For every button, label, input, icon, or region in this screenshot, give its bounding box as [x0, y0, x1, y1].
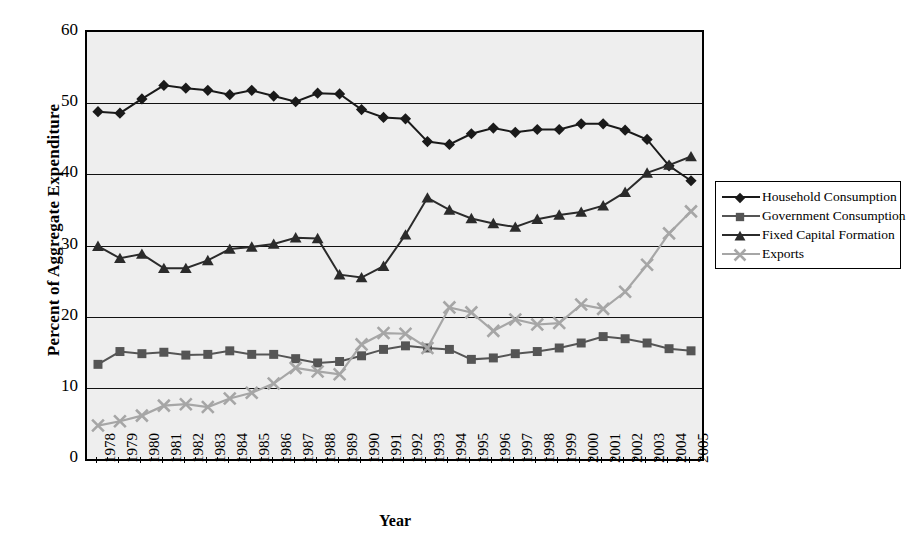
x-minor-tick [239, 457, 240, 461]
x-minor-tick [217, 457, 218, 461]
x-minor-tick [634, 457, 635, 461]
x-tick-mark-1986 [272, 457, 273, 463]
x-minor-tick [656, 457, 657, 461]
x-minor-tick [502, 457, 503, 461]
x-tick-mark-1980 [140, 457, 141, 463]
x-tick-label-1997: 1997 [520, 447, 535, 463]
legend-item-government-consumption[interactable]: Government Consumption [720, 206, 896, 225]
x-minor-tick [129, 457, 130, 461]
x-tick-label-1996: 1996 [498, 447, 513, 463]
x-tick-mark-2003 [645, 457, 646, 463]
x-minor-tick [305, 457, 306, 461]
x-tick-mark-1987 [294, 457, 295, 463]
chart-root: Percent of Aggregate Expenditure 0102030… [0, 0, 912, 545]
x-tick-label-1978: 1978 [103, 447, 118, 463]
x-minor-tick [173, 457, 174, 461]
legend-marker-triangle-icon [733, 229, 747, 243]
legend-marker-diamond-icon [733, 191, 747, 205]
x-tick-label-2003: 2003 [652, 447, 667, 463]
x-tick-mark-1997 [513, 457, 514, 463]
legend-item-fixed-capital-formation[interactable]: Fixed Capital Formation [720, 225, 896, 244]
x-minor-tick [371, 457, 372, 461]
x-tick-label-1985: 1985 [257, 447, 272, 463]
x-minor-tick [546, 457, 547, 461]
x-tick-mark-1982 [184, 457, 185, 463]
x-minor-tick [436, 457, 437, 461]
x-minor-tick [327, 457, 328, 461]
chart-legend: Household ConsumptionGovernment Consumpt… [715, 181, 901, 269]
x-tick-label-1982: 1982 [191, 447, 206, 463]
x-tick-mark-1993 [425, 457, 426, 463]
x-tick-mark-1990 [360, 457, 361, 463]
x-minor-tick [480, 457, 481, 461]
x-tick-mark-2005 [689, 457, 690, 463]
x-tick-mark-1992 [403, 457, 404, 463]
x-tick-label-1994: 1994 [454, 447, 469, 463]
x-tick-mark-1998 [535, 457, 536, 463]
x-tick-label-2002: 2002 [630, 447, 645, 463]
x-minor-tick [678, 457, 679, 461]
x-tick-label-1993: 1993 [432, 447, 447, 463]
x-minor-tick [85, 457, 86, 461]
x-tick-mark-2000 [579, 457, 580, 463]
x-minor-tick [612, 457, 613, 461]
legend-label: Household Consumption [762, 190, 897, 204]
x-tick-mark-1984 [228, 457, 229, 463]
x-minor-tick [261, 457, 262, 461]
x-tick-mark-2004 [667, 457, 668, 463]
x-tick-mark-1979 [118, 457, 119, 463]
legend-key-icon [720, 226, 762, 244]
x-tick-label-1979: 1979 [125, 447, 140, 463]
legend-item-exports[interactable]: Exports [720, 244, 896, 263]
x-tick-mark-2002 [623, 457, 624, 463]
x-minor-tick [700, 457, 701, 461]
x-tick-mark-1988 [316, 457, 317, 463]
x-minor-tick [151, 457, 152, 461]
x-tick-mark-1994 [447, 457, 448, 463]
legend-marker-square-icon [733, 210, 747, 224]
x-tick-label-2004: 2004 [674, 447, 689, 463]
x-tick-mark-1999 [557, 457, 558, 463]
x-tick-label-1983: 1983 [213, 447, 228, 463]
x-tick-label-1990: 1990 [367, 447, 382, 463]
x-tick-label-2005: 2005 [696, 447, 711, 463]
x-axis-title: Year [330, 512, 460, 530]
legend-item-household-consumption[interactable]: Household Consumption [720, 187, 896, 206]
x-tick-mark-1978 [96, 457, 97, 463]
x-minor-tick [524, 457, 525, 461]
x-minor-tick [414, 457, 415, 461]
x-tick-label-1995: 1995 [476, 447, 491, 463]
x-tick-label-1998: 1998 [542, 447, 557, 463]
x-tick-mark-1983 [206, 457, 207, 463]
x-tick-mark-1991 [382, 457, 383, 463]
x-tick-label-1987: 1987 [301, 447, 316, 463]
x-minor-tick [107, 457, 108, 461]
x-tick-label-1999: 1999 [564, 447, 579, 463]
x-tick-mark-1981 [162, 457, 163, 463]
x-minor-tick [568, 457, 569, 461]
legend-key-icon [720, 188, 762, 206]
x-minor-tick [195, 457, 196, 461]
legend-key-icon [720, 207, 762, 225]
x-minor-tick [393, 457, 394, 461]
x-tick-mark-1989 [338, 457, 339, 463]
x-tick-label-1988: 1988 [323, 447, 338, 463]
x-tick-label-1984: 1984 [235, 447, 250, 463]
x-minor-tick [458, 457, 459, 461]
legend-label: Government Consumption [762, 209, 906, 223]
x-tick-mark-1985 [250, 457, 251, 463]
legend-label: Exports [762, 247, 804, 261]
x-tick-label-1981: 1981 [169, 447, 184, 463]
x-tick-label-2001: 2001 [608, 447, 623, 463]
x-tick-label-1992: 1992 [410, 447, 425, 463]
x-tick-label-1986: 1986 [279, 447, 294, 463]
x-tick-label-1980: 1980 [147, 447, 162, 463]
x-tick-mark-2001 [601, 457, 602, 463]
legend-label: Fixed Capital Formation [762, 228, 895, 242]
legend-marker-cross-icon [733, 248, 747, 262]
x-tick-label-1989: 1989 [345, 447, 360, 463]
x-tick-label-2000: 2000 [586, 447, 601, 463]
x-minor-tick [590, 457, 591, 461]
legend-key-icon [720, 245, 762, 263]
x-tick-label-1991: 1991 [389, 447, 404, 463]
